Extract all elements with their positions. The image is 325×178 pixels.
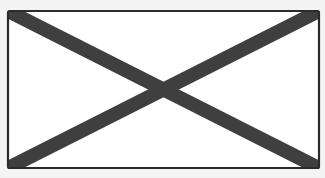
image-placeholder xyxy=(0,0,325,178)
cross-box-icon xyxy=(0,0,325,178)
